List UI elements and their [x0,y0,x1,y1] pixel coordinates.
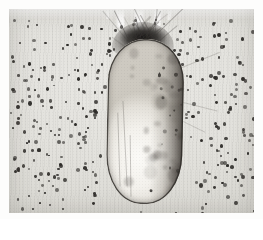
nucleus [51,75,54,78]
nucleus [201,212,204,213]
nucleus [241,37,245,41]
nucleus [34,89,37,91]
nucleus [28,140,31,143]
nucleus [187,89,189,91]
nucleus [34,140,38,144]
nucleus [70,33,72,35]
nucleus [94,91,97,94]
nucleus [88,37,91,40]
nucleus [84,141,87,144]
nucleus [60,77,63,80]
nucleus [19,42,21,44]
nucleus [238,61,242,65]
nucleus [38,133,41,136]
nucleus [222,75,225,78]
nucleus [93,194,96,197]
nucleus [220,155,222,157]
nucleus [227,152,229,154]
nucleus [49,99,53,103]
nucleus [10,112,12,114]
nucleus [46,153,48,156]
nucleus [249,168,252,171]
nucleus [189,27,192,30]
nucleus [32,39,36,43]
nucleus [244,79,248,83]
nucleus [203,179,206,183]
nucleus [28,95,31,98]
nucleus [85,131,87,133]
nucleus [28,101,32,105]
nucleus [28,20,30,22]
nucleus [52,63,55,65]
nucleus [79,147,82,150]
nucleus [252,135,254,137]
nucleus [186,75,188,78]
nucleus [23,130,27,134]
nucleus [38,190,41,192]
nucleus [17,101,20,104]
nucleus [36,121,38,123]
nucleus [13,158,16,161]
nucleus [32,125,35,128]
nucleus [48,180,51,182]
nucleus [74,43,77,46]
nucleus [96,77,100,80]
nucleus [23,79,26,82]
nucleus [225,32,227,34]
nucleus [217,150,219,152]
nucleus [28,168,30,170]
nucleus [46,123,48,125]
nucleus [50,130,52,132]
nucleus [17,167,20,171]
nucleus [215,101,219,104]
nucleus [236,56,240,59]
nucleus [16,121,20,125]
nucleus [70,24,73,27]
nucleus [217,71,221,75]
nucleus [194,30,198,34]
nucleus [11,55,15,59]
nucleus [31,149,34,152]
nucleus [88,27,90,30]
nucleus [28,195,30,197]
nucleus [213,34,216,38]
nucleus [234,201,238,205]
nucleus [175,212,177,213]
nucleus [74,123,77,126]
nucleus [65,101,67,103]
nucleus [242,64,244,66]
nucleus [234,158,237,161]
nucleus [33,48,36,51]
hair-bulb [105,38,184,205]
nucleus [67,117,70,120]
nucleus [241,175,245,179]
nucleus [179,30,182,33]
nucleus [23,149,27,153]
nucleus [84,73,87,77]
hair-bulb-outline [105,38,184,205]
nucleus [240,184,243,187]
nucleus [248,139,251,143]
nucleus [101,63,104,66]
nucleus [197,111,200,113]
nucleus [242,194,245,197]
nucleus [62,141,66,144]
nucleus [201,206,204,210]
nucleus [32,69,34,71]
nucleus [140,211,142,213]
nucleus [252,117,255,121]
nucleus [191,115,194,118]
nucleus [37,94,40,98]
nucleus [214,76,218,80]
nucleus [36,24,38,26]
nucleus [185,117,187,119]
nucleus [234,176,237,179]
nucleus [195,181,199,184]
nucleus [85,115,88,118]
nucleus [50,106,53,109]
nucleus [34,175,37,178]
nucleus [42,105,44,108]
nucleus [217,33,221,37]
nucleus [21,99,24,103]
nucleus [95,111,99,114]
